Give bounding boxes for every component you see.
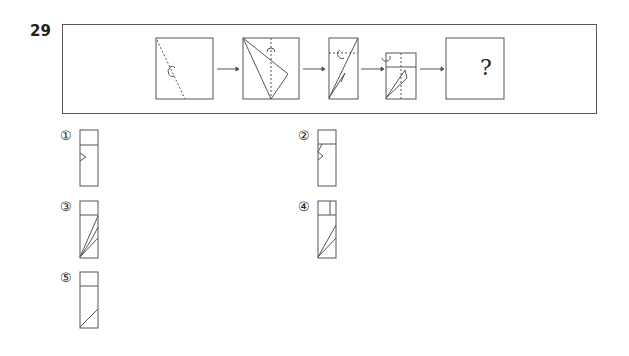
step2-triangle-figure (243, 38, 299, 99)
option1-figure (80, 130, 98, 186)
option-5-label[interactable]: ⑤ (60, 270, 72, 285)
unknown-question-mark: ? (480, 55, 492, 80)
option-3-label[interactable]: ③ (60, 199, 72, 214)
option-2-label[interactable]: ② (298, 128, 310, 143)
option-1-label[interactable]: ① (60, 128, 72, 143)
option3-figure (80, 201, 98, 258)
step5-unknown-box (446, 38, 504, 99)
figures (0, 0, 629, 356)
step4-small-rectangle-figure (382, 53, 416, 99)
option4-figure (318, 201, 336, 258)
step1-square-figure (156, 38, 213, 99)
step3-rectangle-figure (329, 38, 358, 99)
option-4-label[interactable]: ④ (298, 199, 310, 214)
option5-figure (80, 272, 98, 328)
option2-figure (318, 130, 336, 186)
